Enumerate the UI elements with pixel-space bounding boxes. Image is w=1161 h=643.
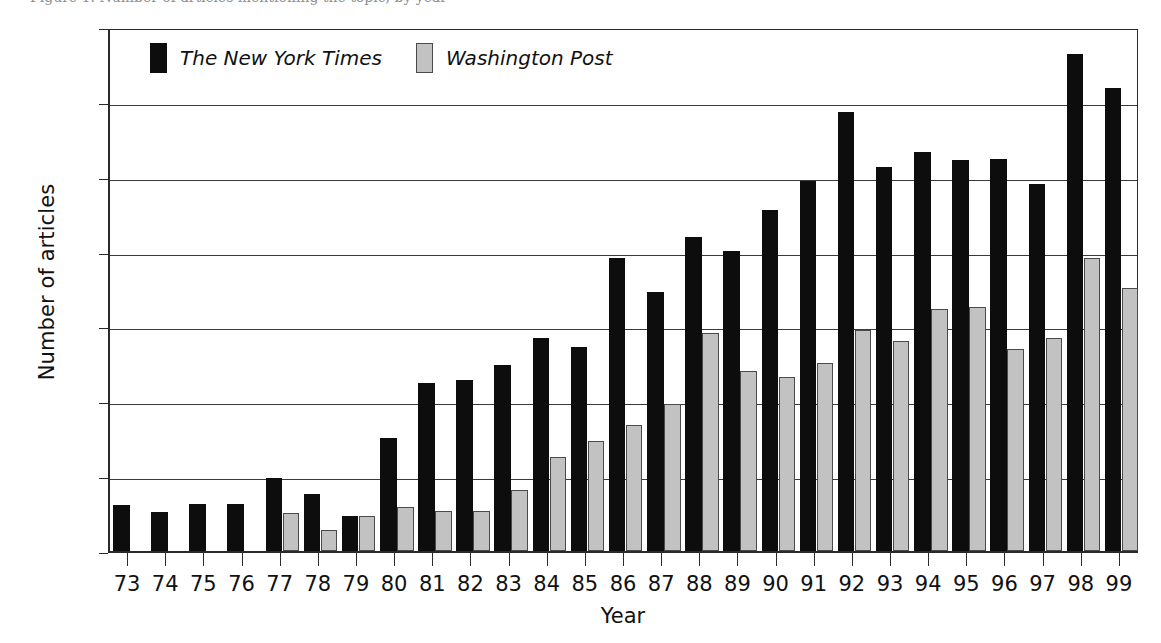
x-tick-mark-88: [699, 553, 700, 566]
bar-wp-84: [550, 457, 567, 551]
bar-nyt-81: [418, 383, 435, 551]
y-tick-mark-500: [99, 179, 108, 180]
x-axis-title: Year: [108, 604, 1138, 628]
bar-nyt-75: [189, 504, 206, 551]
bar-nyt-90: [762, 210, 779, 551]
bar-wp-94: [931, 309, 948, 551]
bar-wp-78: [321, 530, 338, 551]
bar-wp-83: [511, 490, 528, 551]
chart-legend: The New York TimesWashington Post: [150, 43, 613, 73]
bar-group-92: [835, 30, 873, 551]
bar-group-76: [224, 30, 262, 551]
bar-group-81: [415, 30, 453, 551]
bar-wp-85: [588, 441, 605, 551]
bar-nyt-77: [266, 478, 283, 551]
gray-square-swatch: [416, 43, 433, 73]
bar-wp-82: [473, 511, 490, 551]
bar-group-99: [1102, 30, 1140, 551]
bar-group-98: [1064, 30, 1102, 551]
x-tick-mark-80: [394, 553, 395, 566]
x-tick-label-99: 99: [1096, 572, 1142, 596]
bar-wp-91: [817, 363, 834, 551]
bar-nyt-74: [151, 512, 168, 551]
x-tick-mark-74: [165, 553, 166, 566]
bar-nyt-76: [227, 504, 244, 551]
x-tick-mark-79: [356, 553, 357, 566]
bar-nyt-98: [1067, 54, 1084, 551]
y-tick-mark-300: [99, 328, 108, 329]
bar-group-91: [797, 30, 835, 551]
x-tick-mark-75: [203, 553, 204, 566]
bar-wp-97: [1046, 338, 1063, 551]
bar-nyt-94: [914, 152, 931, 551]
x-tick-mark-73: [127, 553, 128, 566]
x-tick-mark-93: [890, 553, 891, 566]
bar-group-77: [263, 30, 301, 551]
bar-nyt-82: [456, 380, 473, 551]
bar-wp-77: [283, 513, 300, 551]
bar-group-82: [453, 30, 491, 551]
x-tick-mark-78: [318, 553, 319, 566]
bar-wp-80: [397, 507, 414, 551]
bar-nyt-96: [990, 159, 1007, 551]
black-square-swatch: [150, 43, 167, 73]
bar-nyt-99: [1105, 88, 1122, 551]
bar-wp-99: [1122, 288, 1139, 551]
bar-wp-88: [702, 333, 719, 551]
x-tick-mark-90: [776, 553, 777, 566]
bar-group-73: [110, 30, 148, 551]
bar-nyt-73: [113, 505, 130, 551]
bar-group-83: [491, 30, 529, 551]
x-tick-mark-87: [661, 553, 662, 566]
bar-group-94: [911, 30, 949, 551]
bar-nyt-87: [647, 292, 664, 551]
bar-group-89: [720, 30, 758, 551]
bar-nyt-93: [876, 167, 893, 551]
bar-group-79: [339, 30, 377, 551]
bar-group-75: [186, 30, 224, 551]
bar-nyt-79: [342, 516, 359, 551]
bar-group-84: [530, 30, 568, 551]
x-tick-mark-91: [814, 553, 815, 566]
y-tick-mark-0: [99, 553, 108, 554]
bar-group-86: [606, 30, 644, 551]
y-tick-mark-700: [99, 29, 108, 30]
bar-nyt-95: [952, 160, 969, 552]
bar-wp-92: [855, 330, 872, 551]
x-tick-mark-81: [432, 553, 433, 566]
legend-entry-wp: Washington Post: [416, 43, 613, 73]
bar-wp-93: [893, 341, 910, 551]
bar-wp-90: [779, 377, 796, 551]
bar-wp-81: [435, 511, 452, 551]
bar-nyt-86: [609, 258, 626, 551]
cut-off-caption-strip: Figure 1. Number of articles mentioning …: [0, 0, 1161, 12]
x-tick-mark-86: [623, 553, 624, 566]
bar-group-88: [682, 30, 720, 551]
y-axis-title: Number of articles: [35, 72, 59, 492]
bar-group-80: [377, 30, 415, 551]
x-tick-mark-89: [737, 553, 738, 566]
bar-nyt-88: [685, 237, 702, 551]
bar-nyt-78: [304, 494, 321, 551]
x-tick-mark-97: [1043, 553, 1044, 566]
x-tick-mark-84: [547, 553, 548, 566]
bar-group-95: [949, 30, 987, 551]
bar-wp-96: [1007, 349, 1024, 551]
y-tick-mark-100: [99, 478, 108, 479]
bar-wp-89: [740, 371, 757, 551]
bar-wp-86: [626, 425, 643, 552]
bar-group-93: [873, 30, 911, 551]
bar-nyt-89: [723, 251, 740, 551]
y-tick-mark-600: [99, 104, 108, 105]
bar-nyt-85: [571, 347, 588, 551]
x-tick-mark-96: [1004, 553, 1005, 566]
x-tick-mark-94: [928, 553, 929, 566]
plot-area: [108, 29, 1138, 553]
bar-group-74: [148, 30, 186, 551]
bar-wp-87: [664, 404, 681, 551]
bar-wp-79: [359, 516, 376, 551]
x-tick-mark-99: [1119, 553, 1120, 566]
x-tick-mark-85: [585, 553, 586, 566]
bar-nyt-84: [533, 338, 550, 551]
bar-wp-95: [969, 307, 986, 551]
